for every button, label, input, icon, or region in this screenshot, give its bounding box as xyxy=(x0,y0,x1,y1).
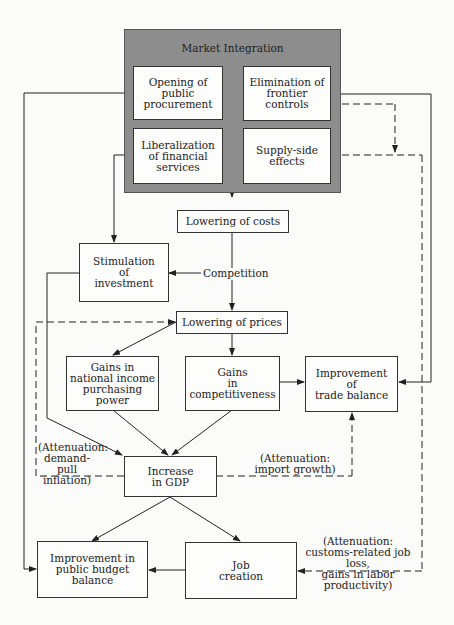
node-lowering-costs: Lowering of costs xyxy=(177,210,289,233)
node-gains-income: Gains in national income purchasing powe… xyxy=(66,356,159,411)
container-title: Market Integration xyxy=(125,42,340,54)
box-frontier-controls: Elimination of frontier controls xyxy=(243,66,331,121)
node-lowering-prices: Lowering of prices xyxy=(176,311,288,334)
box-public-procurement: Opening of public procurement xyxy=(133,66,223,120)
annotation-import-growth: (Attenuation: import growth) xyxy=(250,453,340,475)
node-trade-balance: Improvement of trade balance xyxy=(305,356,398,412)
label-competition: Competition xyxy=(203,268,261,279)
node-public-budget: Improvement in public budget balance xyxy=(37,541,148,598)
node-gains-competitiveness: Gains in competitiveness xyxy=(185,356,280,411)
node-stimulation-investment: Stimulation of investment xyxy=(79,243,169,302)
node-increase-gdp: Increase in GDP xyxy=(124,456,217,497)
node-job-creation: Job creation xyxy=(185,542,297,599)
annotation-demand-pull: (Attenuation: demand-pull inflation) xyxy=(38,442,96,486)
box-financial-services: Liberalization of financial services xyxy=(133,128,223,184)
annotation-job-loss: (Attenuation: customs-related job loss, … xyxy=(298,536,418,591)
box-supply-side: Supply-side effects xyxy=(243,128,331,184)
